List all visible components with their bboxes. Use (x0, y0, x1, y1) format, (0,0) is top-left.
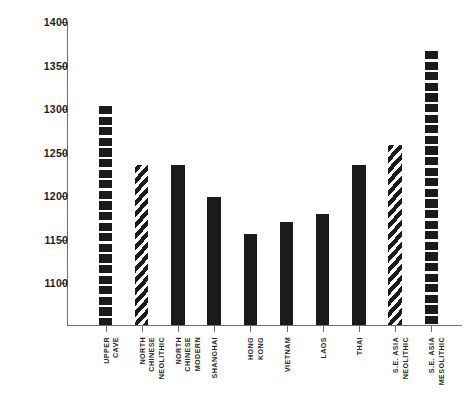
bar (316, 214, 330, 325)
x-axis-label: CAVE (110, 337, 122, 391)
x-axis-label: MESOLITHIC (436, 337, 448, 391)
x-axis-label: THAI (354, 337, 366, 391)
x-axis-label: NEOLITHIC (156, 337, 168, 391)
bar (207, 197, 221, 325)
y-tick-label: 1300 (24, 104, 68, 115)
x-tick-mark (250, 326, 251, 332)
x-tick-mark (106, 326, 107, 332)
bar-chart: 1100115012001250130013501400 UPPERCAVENO… (0, 0, 472, 395)
bar (135, 165, 149, 325)
y-tick-label: 1100 (24, 278, 68, 289)
x-tick-mark (214, 326, 215, 332)
bar (425, 51, 439, 325)
y-tick-label: 1400 (24, 17, 68, 28)
x-tick-mark (178, 326, 179, 332)
bar (171, 165, 185, 325)
x-axis-label: VIETNAM (282, 337, 294, 391)
y-tick-label: 1350 (24, 61, 68, 72)
y-tick-label: 1250 (24, 148, 68, 159)
x-tick-mark (359, 326, 360, 332)
x-tick-mark (395, 326, 396, 332)
bar (388, 145, 402, 325)
bar (280, 222, 294, 325)
x-tick-mark (431, 326, 432, 332)
bar (99, 106, 113, 325)
x-axis-label: LAOS (318, 337, 330, 391)
bar (244, 234, 258, 325)
y-tick-label: 1150 (24, 235, 68, 246)
x-axis-label: NEOLITHIC (400, 337, 412, 391)
x-axis-label: KONG (255, 337, 267, 391)
x-tick-mark (323, 326, 324, 332)
y-tick-label: 1200 (24, 191, 68, 202)
x-tick-mark (287, 326, 288, 332)
x-axis-label: SHANGHAI (209, 337, 221, 391)
x-tick-mark (142, 326, 143, 332)
bar (352, 165, 366, 325)
plot-area (67, 0, 462, 326)
x-axis-label: MODERN (192, 337, 204, 391)
